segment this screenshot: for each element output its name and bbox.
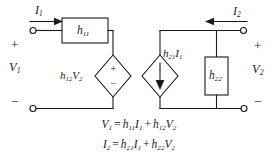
voltage-source-minus-sign: −	[111, 79, 117, 89]
output-port-minus-sign: −	[254, 95, 261, 108]
terminal-output-bottom	[241, 106, 247, 112]
input-port-plus-sign: +	[11, 38, 18, 51]
terminal-input-top	[30, 28, 36, 34]
dependent-voltage-source-label: h12V2	[60, 70, 82, 82]
resistor-h22-label: h22	[209, 70, 222, 83]
dependent-current-source-label: h21I1	[163, 48, 182, 60]
input-voltage-label: V1	[9, 61, 21, 74]
equation-block: V1=h11I1+h12V2 I2=h21I1+h22V2	[0, 116, 278, 155]
output-current-label: I2	[233, 5, 241, 18]
equation-i2: I2=h21I1+h22V2	[0, 136, 278, 156]
output-current-arrowhead	[205, 18, 214, 25]
input-current-label: I1	[35, 4, 43, 17]
input-port-minus-sign: −	[11, 95, 18, 108]
output-voltage-label: V2	[252, 63, 264, 76]
output-port-plus-sign: +	[254, 39, 261, 52]
voltage-source-plus-sign: +	[111, 64, 117, 74]
dependent-voltage-source-diamond	[95, 55, 131, 97]
resistor-h11-label: h11	[77, 25, 89, 38]
terminal-output-top	[241, 28, 247, 34]
circuit-diagram-figure: I1 I2 + V1 − + V2 − h11 h22 h12V2 + − h2…	[0, 0, 278, 159]
equation-v1: V1=h11I1+h12V2	[0, 116, 278, 136]
terminal-input-bottom	[30, 106, 36, 112]
